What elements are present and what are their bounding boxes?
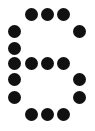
matrix-dot (41, 57, 54, 70)
matrix-dot (25, 108, 38, 121)
matrix-dot (25, 57, 38, 70)
matrix-dot (8, 25, 21, 38)
matrix-dot (73, 25, 86, 38)
matrix-dot (8, 73, 21, 86)
matrix-dot (25, 8, 38, 21)
matrix-dot (8, 42, 21, 55)
matrix-dot (57, 8, 70, 21)
matrix-dot (57, 108, 70, 121)
matrix-dot (73, 91, 86, 104)
matrix-dot (8, 57, 21, 70)
dot-matrix-digit (0, 0, 95, 131)
matrix-dot (41, 8, 54, 21)
matrix-dot (8, 91, 21, 104)
matrix-dot (57, 57, 70, 70)
matrix-dot (73, 73, 86, 86)
matrix-dot (41, 108, 54, 121)
